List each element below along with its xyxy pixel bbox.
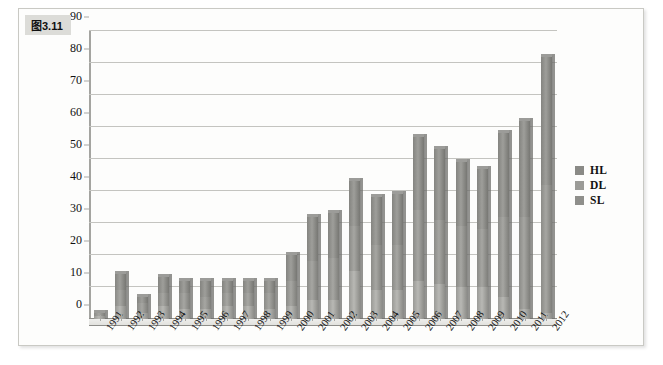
bar-segment-hl [307,217,318,262]
legend-item-hl[interactable]: HL [575,164,607,176]
stacked-bar-2009[interactable] [477,169,488,319]
x-axis-tick: 2008 [451,321,472,365]
x-axis-tick-mark [248,315,249,321]
stacked-bar-2003[interactable] [349,181,360,319]
bar-group[interactable] [472,31,493,319]
x-axis-tick: 1992 [110,321,131,365]
bar-group[interactable] [514,31,535,319]
bar-segment-hl [371,197,382,245]
bar-segment-dl [349,226,360,271]
x-axis-tick: 2006 [408,321,429,365]
y-axis-tick-60: 60 [70,105,89,120]
bar-group[interactable] [536,31,557,319]
bar-group[interactable] [110,31,131,319]
x-axis-tick: 2002 [323,321,344,365]
x-axis-tick: 2007 [429,321,450,365]
figure-frame: 图3.11 9080706050403020100 19911992199319… [18,8,644,346]
x-axis-tick-mark [355,315,356,321]
bar-group[interactable] [195,31,216,319]
x-axis-tick-mark [397,315,398,321]
x-axis-tick: 2011 [514,321,535,365]
x-axis-tick-mark [163,315,164,321]
legend-swatch-sl [575,196,584,205]
bar-segment-dl [222,293,233,306]
stacked-bar-2004[interactable] [371,197,382,319]
figure-number-label: 图3.11 [25,15,71,35]
stacked-bar-2006[interactable] [413,137,424,319]
legend-item-dl[interactable]: DL [575,179,607,191]
bar-segment-dl [498,217,509,297]
chart-plot-area: 9080706050403020100 [89,31,557,319]
bar-segment-dl [158,293,169,306]
y-axis-tick-40: 40 [70,169,89,184]
bar-segment-hl [541,57,552,185]
bar-group[interactable] [408,31,429,319]
bar-segment-dl [392,245,403,290]
x-axis-tick-mark [121,315,122,321]
bar-group[interactable] [387,31,408,319]
bar-group[interactable] [365,31,386,319]
x-axis-tick: 2009 [472,321,493,365]
x-axis-tick: 2005 [387,321,408,365]
bar-segment-dl [264,293,275,309]
stacked-bar-2002[interactable] [328,213,339,319]
stacked-bar-2010[interactable] [498,133,509,319]
bar-segment-hl [115,274,126,290]
legend-item-sl[interactable]: SL [575,194,607,206]
bar-group[interactable] [344,31,365,319]
x-axis-tick: 2003 [344,321,365,365]
bar-group[interactable] [259,31,280,319]
x-axis-tick: 2000 [280,321,301,365]
x-axis-tick-mark [142,315,143,321]
y-axis-tick-70: 70 [70,73,89,88]
bar-segment-hl [413,137,424,211]
bar-group[interactable] [89,31,110,319]
x-axis-tick-mark [100,315,101,321]
stacked-bar-2001[interactable] [307,217,318,319]
x-axis-tick: 2012 [536,321,557,365]
bar-segment-dl [243,293,254,306]
bar-segment-hl [286,255,297,281]
x-axis-tick-mark [546,315,547,321]
bar-group[interactable] [302,31,323,319]
chart-bars [89,31,557,319]
bar-group[interactable] [323,31,344,319]
bar-segment-hl [179,281,190,294]
bar-group[interactable] [174,31,195,319]
bar-segment-hl [519,121,530,217]
bar-group[interactable] [153,31,174,319]
bar-group[interactable] [280,31,301,319]
bar-segment-hl [158,277,169,293]
bar-segment-dl [434,220,445,284]
bar-group[interactable] [217,31,238,319]
x-axis-tick: 1998 [238,321,259,365]
x-axis-tick-mark [482,315,483,321]
bar-segment-hl [434,149,445,219]
stacked-bar-2008[interactable] [456,162,467,319]
x-axis-tick: 1991 [89,321,110,365]
x-axis-tick-mark [291,315,292,321]
y-axis-tick-10: 10 [70,265,89,280]
x-axis-tick: 1995 [174,321,195,365]
bar-segment-hl [498,133,509,216]
bar-segment-dl [413,210,424,280]
bar-segment-dl [307,261,318,299]
stacked-bar-2007[interactable] [434,149,445,319]
stacked-bar-2011[interactable] [519,121,530,319]
bar-group[interactable] [429,31,450,319]
bar-segment-dl [179,293,190,309]
x-axis-tick-mark [334,315,335,321]
bar-group[interactable] [451,31,472,319]
bar-segment-hl [328,213,339,258]
stacked-bar-2012[interactable] [541,57,552,319]
bar-segment-hl [392,194,403,245]
x-axis-tick: 1997 [217,321,238,365]
x-axis-tick-mark [270,315,271,321]
bar-group[interactable] [238,31,259,319]
bar-group[interactable] [493,31,514,319]
y-axis-tick-80: 80 [70,41,89,56]
x-axis-tick: 2004 [365,321,386,365]
stacked-bar-2005[interactable] [392,194,403,319]
legend-label-dl: DL [590,179,607,191]
bar-group[interactable] [132,31,153,319]
